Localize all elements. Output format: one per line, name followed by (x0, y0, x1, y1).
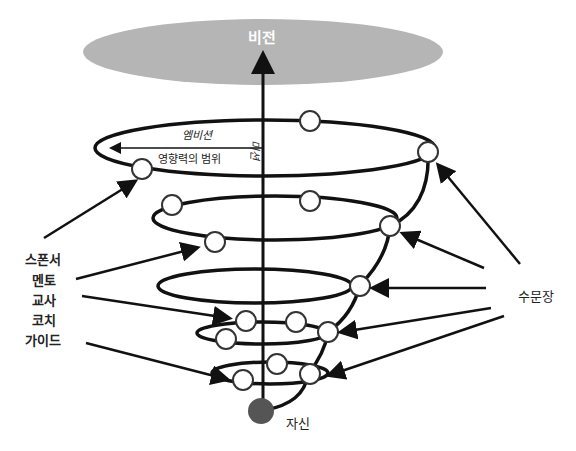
ring-3 (158, 269, 352, 303)
node (418, 142, 438, 162)
role-label-coach: 코치 (32, 310, 56, 329)
node (216, 329, 236, 349)
node (267, 354, 287, 374)
role-label-guide: 가이드 (25, 330, 61, 349)
node (300, 364, 320, 384)
ring-2 (153, 196, 397, 240)
mission-label: 미션 (248, 140, 264, 160)
node (205, 232, 225, 252)
node (380, 216, 400, 236)
self-node (248, 398, 274, 424)
role-label-sponsor: 스폰서 (25, 249, 61, 268)
node (162, 195, 182, 215)
vision-label: 비전 (248, 26, 276, 47)
node (350, 276, 370, 296)
node (233, 370, 253, 390)
node (300, 111, 320, 131)
node (132, 159, 152, 179)
self-label: 자신 (286, 413, 310, 432)
node (236, 311, 256, 331)
gatekeeper-arrow (404, 234, 484, 268)
gatekeeper-label: 수문장 (518, 286, 554, 305)
gatekeeper-arrow (439, 166, 520, 264)
role-arrow (44, 182, 134, 238)
gatekeeper-arrow (330, 316, 504, 375)
role-label-teacher: 교사 (32, 290, 56, 309)
node (286, 312, 306, 332)
sphere-of-influence-label: 영향력의 범위 (158, 150, 222, 166)
ambition-label: 엠비션 (182, 126, 212, 142)
role-arrow (86, 343, 226, 379)
spiral-diagram: 비전 엠비션 영향력의 범위 미션 스폰서 멘토 교사 코치 가이드 수문장 자… (0, 0, 576, 451)
node (318, 322, 338, 342)
role-label-mentor: 멘토 (32, 270, 56, 289)
diagram-canvas (0, 0, 576, 451)
node (300, 191, 320, 211)
